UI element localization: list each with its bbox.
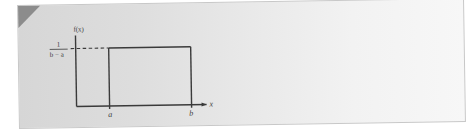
pdf-right-edge	[191, 47, 192, 108]
uniform-distribution-chart: f(x) x 1 b − a a b	[0, 0, 472, 137]
height-numerator: 1	[57, 41, 61, 49]
y-axis-label: f(x)	[73, 25, 84, 33]
pdf-top-edge	[109, 47, 191, 48]
tick-label-a: a	[108, 110, 112, 119]
x-axis-label: x	[208, 99, 213, 108]
pdf-left-edge	[109, 48, 110, 109]
height-denominator: b − a	[50, 51, 65, 59]
x-axis-arrow-icon	[202, 102, 207, 106]
tick-label-b: b	[189, 109, 193, 118]
y-axis	[75, 36, 76, 107]
x-axis	[77, 104, 207, 106]
